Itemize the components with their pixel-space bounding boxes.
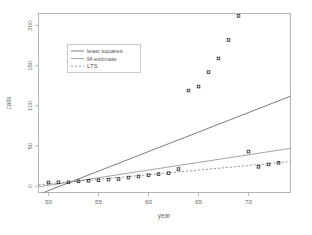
chart-legend: least squaresM-estimateLTS [68, 45, 141, 73]
y-tick-label: 100 [27, 100, 34, 111]
y-axis-label: calls [5, 97, 12, 110]
chart-container: 5055606570 050100150200 year calls least… [0, 0, 312, 235]
x-tick-label: 55 [95, 198, 102, 205]
legend-label-2: LTS [87, 63, 98, 69]
x-tick-label: 65 [195, 198, 202, 205]
scatter-chart: 5055606570 050100150200 year calls least… [0, 0, 312, 235]
y-tick-label: 0 [27, 184, 34, 188]
y-tick-label: 200 [27, 20, 34, 31]
legend-label-0: least squares [87, 48, 123, 54]
legend-label-1: M-estimate [87, 56, 117, 62]
y-tick-label: 150 [27, 60, 34, 71]
x-tick-label: 70 [245, 198, 252, 205]
x-axis-label: year [158, 212, 171, 220]
x-tick-label: 50 [45, 198, 52, 205]
x-tick-label: 60 [145, 198, 152, 205]
y-tick-label: 50 [27, 142, 34, 149]
